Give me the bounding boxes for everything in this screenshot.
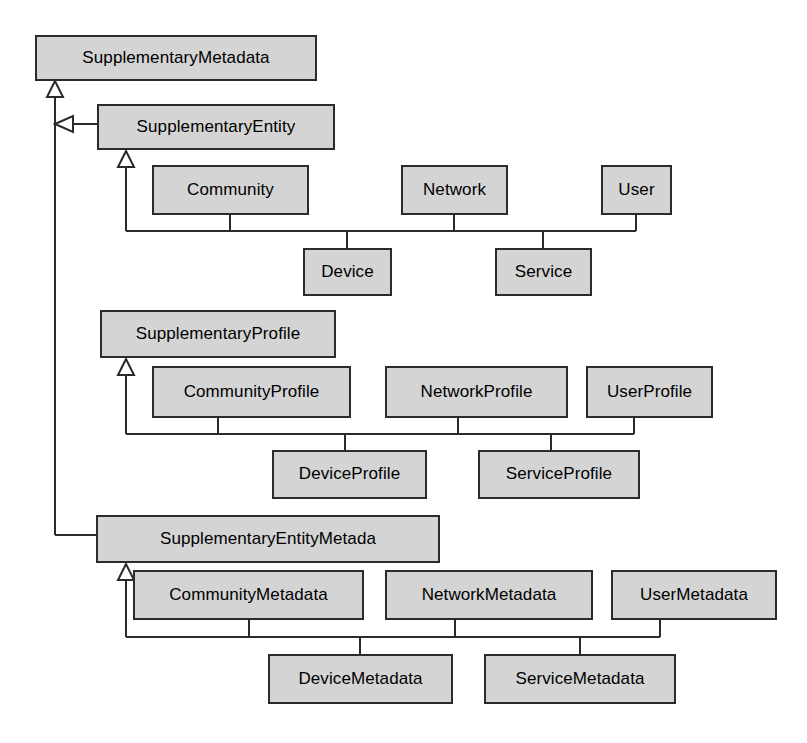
generalization-arrow-supplementary-metadata xyxy=(47,81,63,97)
generalization-arrow-supplementary-entity xyxy=(118,151,134,167)
class-box-supplementary-profile[interactable]: SupplementaryProfile xyxy=(100,310,336,358)
class-name-label: CommunityProfile xyxy=(184,383,320,402)
class-box-community[interactable]: Community xyxy=(152,165,309,215)
class-box-network-metadata[interactable]: NetworkMetadata xyxy=(385,570,593,620)
generalization-arrow-supplementary-profile xyxy=(118,359,134,375)
class-name-label: ServiceMetadata xyxy=(515,670,644,689)
class-box-supplementary-metadata[interactable]: SupplementaryMetadata xyxy=(35,35,317,81)
class-box-device-profile[interactable]: DeviceProfile xyxy=(272,450,427,499)
class-name-label: SupplementaryProfile xyxy=(136,325,301,344)
class-box-community-metadata[interactable]: CommunityMetadata xyxy=(133,570,364,620)
class-box-device[interactable]: Device xyxy=(303,248,392,296)
class-name-label: Network xyxy=(423,181,486,200)
class-box-supplementary-entity[interactable]: SupplementaryEntity xyxy=(97,104,335,150)
class-name-label: DeviceProfile xyxy=(299,465,400,484)
class-name-label: Service xyxy=(515,263,572,282)
class-box-service[interactable]: Service xyxy=(495,248,592,296)
generalization-arrow-supplementary-entity-inherits xyxy=(55,116,73,132)
uml-class-diagram: SupplementaryMetadata SupplementaryEntit… xyxy=(0,0,807,743)
class-name-label: CommunityMetadata xyxy=(169,586,328,605)
class-box-network-profile[interactable]: NetworkProfile xyxy=(385,366,568,418)
class-name-label: User xyxy=(618,181,654,200)
class-box-supplementary-entity-metada[interactable]: SupplementaryEntityMetada xyxy=(96,515,440,563)
class-name-label: NetworkMetadata xyxy=(422,586,557,605)
class-box-community-profile[interactable]: CommunityProfile xyxy=(152,366,351,418)
class-name-label: Community xyxy=(187,181,274,200)
class-name-label: SupplementaryEntityMetada xyxy=(160,530,376,549)
class-box-user-metadata[interactable]: UserMetadata xyxy=(611,570,777,620)
generalization-arrow-supplementary-entity-metada xyxy=(118,564,134,580)
class-box-device-metadata[interactable]: DeviceMetadata xyxy=(268,654,453,704)
class-box-service-profile[interactable]: ServiceProfile xyxy=(478,450,640,499)
class-box-service-metadata[interactable]: ServiceMetadata xyxy=(484,654,676,704)
class-box-user[interactable]: User xyxy=(601,165,672,215)
class-box-network[interactable]: Network xyxy=(401,165,508,215)
class-name-label: ServiceProfile xyxy=(506,465,612,484)
class-name-label: UserMetadata xyxy=(640,586,748,605)
class-name-label: NetworkProfile xyxy=(421,383,533,402)
class-box-user-profile[interactable]: UserProfile xyxy=(586,366,713,418)
class-name-label: UserProfile xyxy=(607,383,692,402)
class-name-label: DeviceMetadata xyxy=(298,670,422,689)
class-name-label: SupplementaryMetadata xyxy=(82,49,269,68)
class-name-label: SupplementaryEntity xyxy=(137,118,296,137)
class-name-label: Device xyxy=(321,263,374,282)
